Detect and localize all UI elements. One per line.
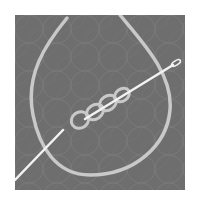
needle-thread-illustration: Needle threading through chain stitch lo… [15,15,185,190]
